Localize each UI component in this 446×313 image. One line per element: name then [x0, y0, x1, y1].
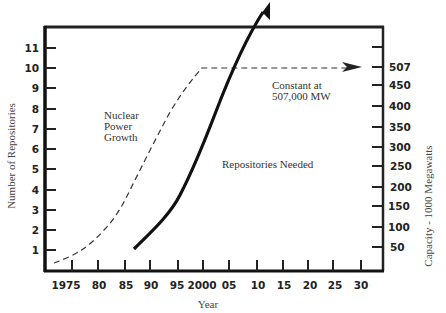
y-tick-label: 9: [32, 82, 39, 94]
annotation-text: 507,000 MW: [272, 90, 331, 102]
annotation-text: Growth: [104, 131, 138, 143]
x-tick-label: 90: [144, 279, 159, 291]
y-tick-label: 7: [32, 123, 39, 135]
x-tick-label: 10: [251, 279, 266, 291]
repositories-annotation: Repositories Needed: [222, 158, 314, 170]
repositories-needed-line: [134, 12, 263, 249]
x-tick-label: 95: [170, 279, 185, 291]
y-tick-label: 10: [24, 62, 39, 74]
y2-tick-label: 450: [389, 79, 411, 91]
y-tick-label: 5: [32, 163, 39, 175]
x-tick-labels: 1975 80 85 90 95 2000 05 10 15 20 25 30: [51, 279, 368, 291]
y2-tick-label: 400: [389, 100, 411, 112]
x-tick-label: 25: [328, 279, 343, 291]
y-tick-label: 2: [32, 224, 39, 236]
y2-tick-label: 150: [388, 200, 410, 212]
y2-tick-label: 507: [389, 61, 411, 73]
right-y-ticks: [372, 47, 383, 247]
chart: 1 2 3 4 5 6 7 8 9 10 11 50 100 150 200 2…: [0, 0, 446, 313]
x-tick-label: 1975: [51, 279, 80, 291]
right-y-tick-labels: 50 100 150 200 250 300 350 400 450 507: [388, 61, 412, 253]
constant-annotation: Constant at 507,000 MW: [272, 79, 331, 102]
x-ticks: [72, 260, 361, 271]
x-axis-title: Year: [198, 298, 219, 310]
nuclear-annotation: Nuclear Power Growth: [104, 109, 139, 143]
x-tick-label: 05: [222, 279, 237, 291]
left-y-tick-labels: 1 2 3 4 5 6 7 8 9 10 11: [24, 42, 39, 256]
y2-tick-label: 300: [389, 141, 411, 153]
y2-tick-label: 50: [390, 241, 405, 253]
x-tick-label: 20: [303, 279, 318, 291]
x-tick-label: 85: [119, 279, 134, 291]
y-tick-label: 6: [32, 143, 39, 155]
y2-tick-label: 350: [389, 121, 411, 133]
y2-tick-label: 100: [388, 221, 410, 233]
y2-tick-label: 200: [390, 181, 412, 193]
arrow-head-icon: [342, 62, 362, 72]
x-tick-label: 30: [354, 279, 369, 291]
y2-tick-label: 250: [390, 160, 412, 172]
y2-axis-title: Capacity - 1000 Megawatts: [422, 145, 434, 266]
y-tick-label: 3: [32, 204, 39, 216]
x-tick-label: 80: [92, 279, 107, 291]
x-tick-label: 15: [277, 279, 292, 291]
x-tick-label: 2000: [187, 279, 216, 291]
y-tick-label: 4: [32, 184, 39, 196]
y-axis-title: Number of Repositories: [5, 103, 17, 209]
y-tick-label: 8: [32, 103, 39, 115]
y-tick-label: 1: [32, 244, 39, 256]
y-tick-label: 11: [24, 42, 39, 54]
